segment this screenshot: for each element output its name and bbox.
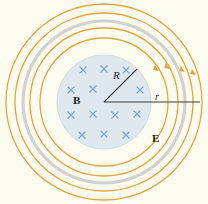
figure-canvas — [0, 0, 208, 204]
label-disk-radius: R — [113, 70, 120, 81]
label-magnetic-field: B — [73, 95, 80, 106]
induced-electric-field-figure: B E R r — [0, 0, 208, 204]
label-field-radius: r — [155, 92, 159, 102]
label-electric-field: E — [152, 133, 159, 144]
